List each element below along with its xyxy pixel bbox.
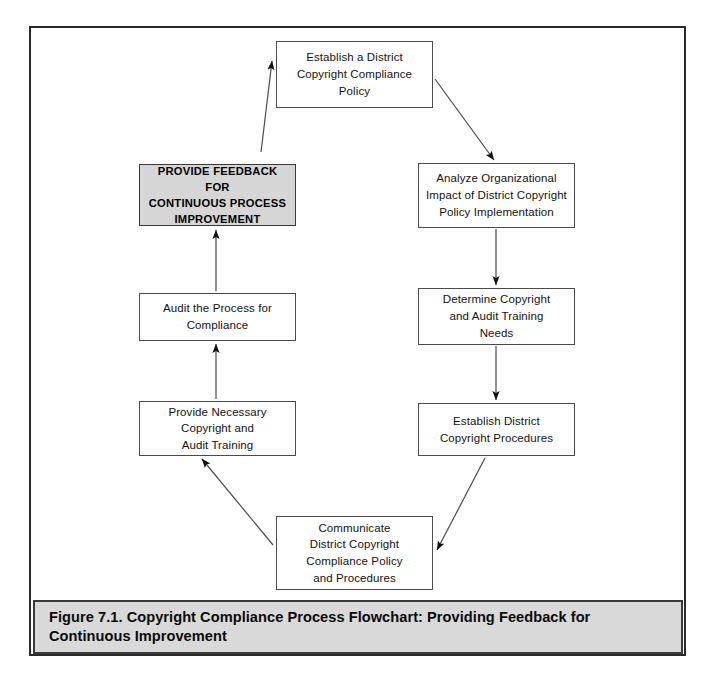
flow-edge-feedback-to-establish (261, 61, 272, 152)
flow-node-label: PROVIDE FEEDBACK FOR CONTINUOUS PROCESS … (144, 163, 291, 228)
flow-node-analyze-impact: Analyze Organizational Impact of Distric… (418, 163, 575, 228)
flow-node-establish-procedures: Establish District Copyright Procedures (418, 403, 575, 456)
flow-node-provide-feedback: PROVIDE FEEDBACK FOR CONTINUOUS PROCESS … (139, 164, 296, 226)
flow-node-label: Communicate District Copyright Complianc… (306, 520, 402, 587)
flow-node-label: Provide Necessary Copyright and Audit Tr… (168, 404, 266, 454)
figure-container: Establish a District Copyright Complianc… (0, 0, 714, 677)
flow-node-label: Analyze Organizational Impact of Distric… (426, 170, 567, 220)
flow-edge-procedures-to-communicate (437, 458, 485, 550)
flow-node-audit-process: Audit the Process for Compliance (139, 293, 296, 341)
flow-node-determine-training-needs: Determine Copyright and Audit Training N… (418, 288, 575, 345)
figure-caption-band: Figure 7.1. Copyright Compliance Process… (33, 600, 683, 654)
flow-node-label: Determine Copyright and Audit Training N… (443, 291, 550, 341)
flow-node-communicate-policy: Communicate District Copyright Complianc… (276, 516, 433, 590)
flow-edge-establish-to-analyze (435, 79, 494, 160)
flow-node-provide-training: Provide Necessary Copyright and Audit Tr… (139, 401, 296, 456)
figure-caption-text: Figure 7.1. Copyright Compliance Process… (35, 608, 604, 647)
flow-node-label: Establish a District Copyright Complianc… (297, 49, 412, 99)
flow-edge-communicate-to-training (202, 459, 273, 545)
flow-node-label: Audit the Process for Compliance (163, 300, 272, 333)
flow-node-establish-policy: Establish a District Copyright Complianc… (276, 41, 433, 108)
flow-node-label: Establish District Copyright Procedures (440, 413, 553, 446)
